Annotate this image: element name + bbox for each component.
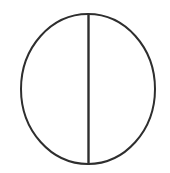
figure-canvas: Circle bisected by a vertical diameter A… xyxy=(0,0,170,173)
divided-circle-figure: Circle bisected by a vertical diameter A… xyxy=(0,0,170,173)
figure-background xyxy=(0,0,170,173)
